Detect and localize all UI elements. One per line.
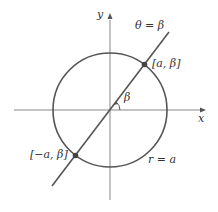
point-neg-a-beta-label: [−a, β]	[30, 149, 68, 160]
polar-diagram	[0, 0, 218, 212]
circle-equation-label: r = a	[148, 154, 176, 165]
point-neg-a-beta	[73, 153, 79, 159]
y-axis-label: y	[97, 9, 103, 20]
point-a-beta	[142, 62, 148, 68]
angle-beta-label: β	[124, 92, 130, 103]
point-a-beta-label: [a, β]	[152, 58, 181, 69]
x-axis-label: x	[198, 113, 204, 124]
y-axis-arrow-icon	[108, 13, 113, 19]
line-equation-label: θ = β	[135, 20, 164, 31]
